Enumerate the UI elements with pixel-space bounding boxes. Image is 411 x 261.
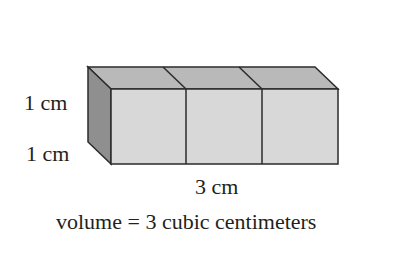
volume-caption: volume = 3 cubic centimeters xyxy=(56,211,316,233)
top-face xyxy=(88,67,338,89)
front-face xyxy=(111,89,338,164)
depth-label: 1 cm xyxy=(26,143,69,165)
length-label: 3 cm xyxy=(195,176,238,198)
height-label: 1 cm xyxy=(24,92,67,114)
